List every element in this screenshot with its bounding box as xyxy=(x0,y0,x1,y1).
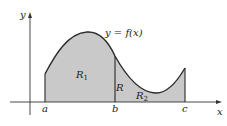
curve-label: y = f(x) xyxy=(104,27,143,38)
point-c-label: c xyxy=(182,103,188,114)
x-axis-arrow-icon xyxy=(216,100,222,104)
point-b-label: b xyxy=(112,103,118,114)
point-a-label: a xyxy=(42,103,48,114)
y-axis-arrow-icon xyxy=(28,12,32,18)
y-axis-label: y xyxy=(19,9,26,20)
region-r-label: R xyxy=(115,82,124,93)
region-r1-sub: 1 xyxy=(84,74,88,82)
x-axis-label: x xyxy=(217,106,223,117)
area-diagram: y x y = f(x) a b c R1 R R2 xyxy=(0,0,227,126)
region-r2-sub: 2 xyxy=(144,95,148,103)
